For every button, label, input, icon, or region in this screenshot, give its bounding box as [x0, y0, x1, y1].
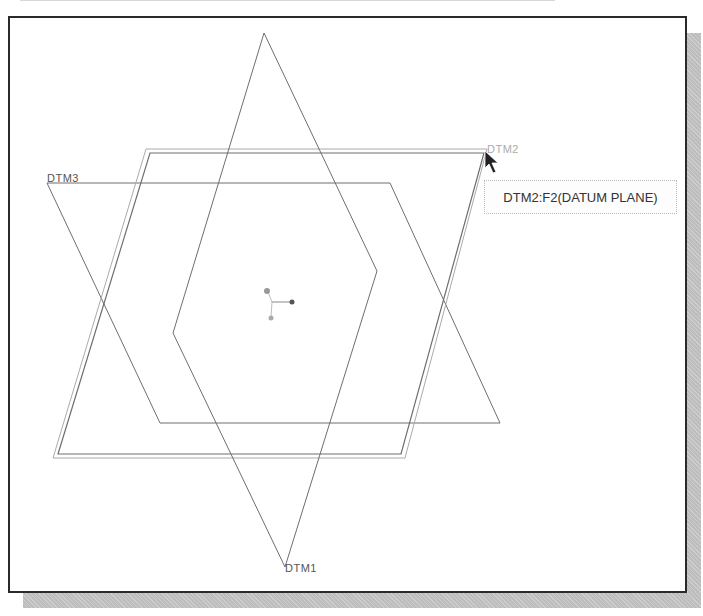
mouse-pointer-icon — [484, 150, 504, 176]
tooltip-datum-plane: DTM2:F2(DATUM PLANE) — [484, 180, 677, 214]
coordinate-triad-icon — [264, 288, 295, 321]
datum-plane-dtm2-outer[interactable] — [53, 149, 487, 458]
datum-plane-dtm2-inner[interactable] — [58, 153, 484, 454]
datum-plane-dtm1[interactable] — [173, 33, 377, 567]
tooltip-text: DTM2:F2(DATUM PLANE) — [503, 190, 657, 205]
datum-planes-scene — [0, 0, 703, 616]
datum-plane-dtm3[interactable] — [47, 183, 500, 423]
label-dtm1: DTM1 — [285, 562, 317, 574]
label-dtm3: DTM3 — [47, 172, 79, 184]
